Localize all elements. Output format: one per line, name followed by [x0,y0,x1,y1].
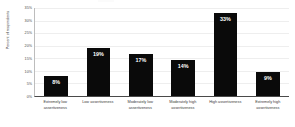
y-axis-tick-15pct: 15% [14,57,32,61]
bar-value-label: 14% [178,64,189,69]
x-axis-label-5: High assertiveness [204,100,247,111]
bar-2[interactable]: 19% [87,48,111,96]
x-axis-category-labels: Extremely lowassertivenessLow assertiven… [34,100,289,111]
bar-5[interactable]: 33% [214,13,238,96]
bar-value-label: 17% [135,58,146,63]
x-axis-label-line: assertiveness [120,106,161,112]
y-axis-tick-25pct: 25% [14,31,32,35]
bar-1[interactable]: 8% [44,76,68,96]
x-axis-label-4: Moderately highassertiveness [162,100,205,111]
bar-value-label: 33% [220,17,231,22]
bar-chart-figure: Percent of respondents 0%5%10%15%20%25%3… [0,0,295,127]
y-axis-tick-0pct: 0% [14,95,32,99]
bars-group: 8%19%17%14%33%9% [35,8,289,96]
bar-slot: 19% [77,8,119,96]
bar-slot: 14% [162,8,204,96]
y-axis-tick-labels: 0%5%10%15%20%25%30%35% [14,8,32,97]
bar-slot: 9% [247,8,289,96]
x-axis-label-line: Low assertiveness [78,100,119,106]
x-axis-label-line: assertiveness [248,106,289,112]
cropped-title-artifact [98,0,114,2]
bar-3[interactable]: 17% [129,54,153,96]
y-axis-tick-5pct: 5% [14,82,32,86]
x-axis-label-line: assertiveness [35,106,76,112]
bar-value-label: 19% [93,52,104,57]
y-axis-tick-35pct: 35% [14,6,32,10]
bar-value-label: 8% [52,80,60,85]
x-axis-label-1: Extremely lowassertiveness [34,100,77,111]
bar-slot: 17% [120,8,162,96]
bar-4[interactable]: 14% [171,60,195,96]
x-axis-label-2: Low assertiveness [77,100,120,111]
y-axis-title: Percent of respondents [6,0,10,68]
y-axis-tick-10pct: 10% [14,70,32,74]
bar-slot: 33% [204,8,246,96]
plot-area: 8%19%17%14%33%9% [34,8,289,97]
x-axis-label-line: assertiveness [163,106,204,112]
x-axis-label-3: Moderately lowassertiveness [119,100,162,111]
bar-6[interactable]: 9% [256,72,280,96]
bar-slot: 8% [35,8,77,96]
y-axis-tick-20pct: 20% [14,44,32,48]
bar-value-label: 9% [264,76,272,81]
x-axis-label-6: Extremely highassertiveness [247,100,290,111]
x-axis-label-line: High assertiveness [205,100,246,106]
y-axis-tick-30pct: 30% [14,19,32,23]
